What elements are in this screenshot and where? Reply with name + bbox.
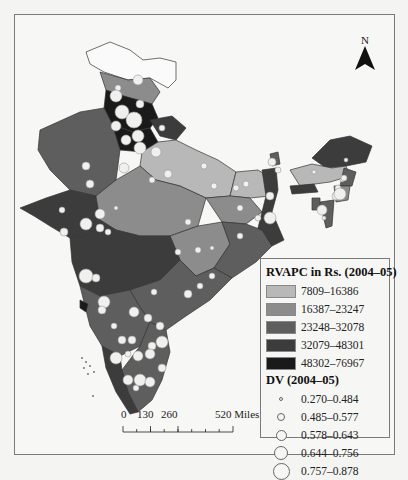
scale-bar: 0 130 260 520 Miles xyxy=(117,408,257,438)
legend-rvapc-class: 48302–76967 xyxy=(266,354,384,372)
legend-rvapc-class: 32079–48301 xyxy=(266,336,384,354)
region-rajasthan xyxy=(38,108,120,196)
legend-dv-class: 0.270–0.484 xyxy=(266,390,384,408)
legend-dv-class: 0.757–0.878 xyxy=(266,462,384,480)
legend-class-label: 16387–23247 xyxy=(301,303,364,315)
legend-class-label: 0.270–0.484 xyxy=(301,393,359,405)
legend-dv-class: 0.644–0.756 xyxy=(266,444,384,462)
north-arrow-icon xyxy=(355,46,375,72)
legend-class-label: 32079–48301 xyxy=(301,339,364,351)
region-jharkhand xyxy=(206,196,262,224)
legend-class-label: 0.578–0.643 xyxy=(301,429,359,441)
north-arrow: N xyxy=(352,34,378,76)
legend-dv-class: 0.578–0.643 xyxy=(266,426,384,444)
legend-class-label: 0.644–0.756 xyxy=(301,447,359,459)
legend-swatch xyxy=(266,285,296,298)
scale-tick-520: 520 Miles xyxy=(215,408,259,420)
dv-circle-icon xyxy=(279,397,283,401)
legend-swatch xyxy=(266,339,296,352)
region-arunachal xyxy=(312,136,372,168)
legend-swatch xyxy=(266,303,296,316)
region-meghalaya xyxy=(290,184,318,194)
legend-rvapc-class: 16387–23247 xyxy=(266,300,384,318)
legend-dv-title: DV (2004–05) xyxy=(266,373,384,388)
north-label: N xyxy=(352,34,378,46)
scale-tick-260: 260 xyxy=(161,408,178,420)
legend-rvapc-class: 7809–16386 xyxy=(266,282,384,300)
legend-class-label: 7809–16386 xyxy=(301,285,359,297)
dv-circle-icon xyxy=(276,430,287,441)
legend-swatch xyxy=(266,357,296,370)
legend-rvapc-title: RVAPC in Rs. (2004–05) xyxy=(266,265,384,280)
legend-class-label: 0.485–0.577 xyxy=(301,411,359,423)
scale-tick-0: 0 xyxy=(121,408,127,420)
legend-swatch xyxy=(266,321,296,334)
legend-dv-class: 0.485–0.577 xyxy=(266,408,384,426)
map-legend: RVAPC in Rs. (2004–05) 7809–16386 16387–… xyxy=(260,258,390,438)
dv-circle-icon xyxy=(274,446,288,460)
legend-class-label: 23248–32078 xyxy=(301,321,364,333)
scale-bar-graphic xyxy=(117,424,237,434)
dv-circle-icon xyxy=(273,463,290,480)
legend-class-label: 0.757–0.878 xyxy=(301,465,359,477)
region-uttarakhand xyxy=(150,116,186,140)
lakshadweep-islands xyxy=(81,357,95,397)
legend-class-label: 48302–76967 xyxy=(301,357,364,369)
scale-tick-130: 130 xyxy=(137,408,154,420)
legend-rvapc-class: 23248–32078 xyxy=(266,318,384,336)
dv-circle-icon xyxy=(277,413,285,421)
